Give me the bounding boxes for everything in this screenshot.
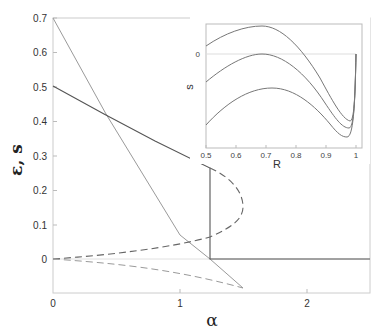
y-tick-label: 0.5 [33, 82, 47, 93]
x-tick-label: 2 [304, 298, 310, 309]
inset-y-axis-label: s [183, 84, 195, 90]
y-tick-label: 0.2 [33, 185, 47, 196]
y-tick-label: 0.6 [33, 47, 47, 58]
y-tick-label: 0.4 [33, 116, 47, 127]
y-tick-label: 0.1 [33, 220, 47, 231]
inset-x-tick-label: 1 [354, 151, 359, 160]
inset-x-tick-label: 0.5 [200, 151, 212, 160]
inset-x-tick-label: 0.8 [290, 151, 302, 160]
y-axis-label: ε, s [6, 144, 26, 176]
inset-x-tick-label: 0.7 [260, 151, 272, 160]
inset-y-tick-label: 0 [196, 50, 201, 59]
x-tick-label: 1 [177, 298, 183, 309]
x-axis-label: α [206, 310, 218, 330]
y-axis: 0.7 0.6 0.5 0.4 0.3 0.2 0.1 0 ε, s [6, 13, 57, 265]
y-tick-label: 0.3 [33, 151, 47, 162]
x-tick-label: 0 [50, 298, 56, 309]
y-tick-label: 0.7 [33, 13, 47, 24]
series-unstable-branch [53, 168, 243, 259]
y-tick-label: 0 [41, 254, 47, 265]
inset-x-tick-label: 0.6 [230, 151, 242, 160]
inset-x-axis-label: R [273, 158, 281, 170]
bifurcation-chart: 0.7 0.6 0.5 0.4 0.3 0.2 0.1 0 ε, s 0 1 2… [0, 0, 380, 332]
inset-plot: 0.5 0.6 0.7 0.8 0.9 1 R 0 s [183, 14, 370, 170]
x-axis: 0 1 2 α [50, 289, 310, 330]
inset-x-tick-label: 0.9 [320, 151, 332, 160]
